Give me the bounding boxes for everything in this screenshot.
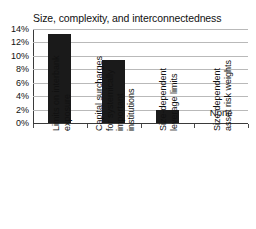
- y-axis-tick-label: 2%: [0, 105, 29, 114]
- y-axis-tick-label: 8%: [0, 65, 29, 74]
- bar: [156, 110, 179, 123]
- bar: [102, 60, 125, 123]
- chart-title: Size, complexity, and interconnectedness: [33, 12, 221, 24]
- x-axis-tick: [87, 124, 88, 128]
- x-axis-tick: [194, 124, 195, 128]
- y-axis-tick-label: 10%: [0, 51, 29, 60]
- plot-area: None: [33, 29, 248, 123]
- bar-chart: Size, complexity, and interconnectedness…: [0, 0, 256, 229]
- x-axis-tick: [33, 124, 34, 128]
- y-axis-tick-label: 12%: [0, 38, 29, 47]
- y-axis-tick-label: 0%: [0, 119, 29, 128]
- x-axis-tick: [141, 124, 142, 128]
- y-axis-tick-label: 6%: [0, 78, 29, 87]
- bars-group: None: [33, 29, 248, 123]
- none-annotation: None: [210, 108, 233, 118]
- y-axis-tick-label: 14%: [0, 25, 29, 34]
- bar: [48, 34, 71, 123]
- x-axis-tick: [248, 124, 249, 128]
- y-axis-tick-label: 4%: [0, 92, 29, 101]
